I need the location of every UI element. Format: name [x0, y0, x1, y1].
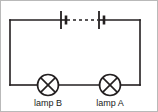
lamp-b-symbol	[38, 75, 59, 96]
lamp-a-label: lamp A	[86, 98, 134, 109]
battery-cell-right	[99, 11, 104, 29]
battery-cell-left	[61, 11, 66, 29]
circuit-diagram-image: lamp B lamp A	[0, 0, 158, 112]
lamp-b-label: lamp B	[24, 98, 72, 109]
circuit-loop-wires	[10, 20, 140, 85]
lamp-a-symbol	[100, 75, 121, 96]
circuit-schematic	[0, 0, 158, 112]
